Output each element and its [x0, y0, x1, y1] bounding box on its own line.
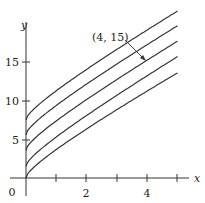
- annotation-arrow: [125, 40, 144, 59]
- x-tick-label-2: 2: [83, 187, 90, 200]
- annotation-label: (4, 15): [92, 31, 129, 44]
- y-tick-label-15: 15: [5, 56, 19, 69]
- y-axis-label: y: [20, 19, 28, 32]
- y-tick-label-10: 10: [5, 95, 19, 108]
- chart: 2 4 5 10 15 0 x y (4, 15): [0, 0, 205, 203]
- x-axis-label: x: [194, 172, 201, 185]
- curve-3: [26, 41, 178, 150]
- curve-1: [26, 11, 178, 120]
- curve-5: [26, 73, 178, 178]
- origin-label: 0: [9, 186, 16, 199]
- y-tick-label-5: 5: [12, 134, 19, 147]
- x-tick-label-4: 4: [144, 187, 151, 200]
